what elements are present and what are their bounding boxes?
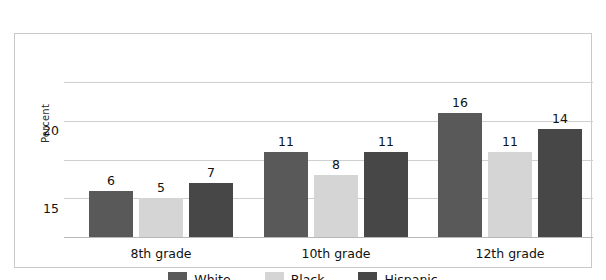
legend-swatch-white [168, 272, 187, 280]
legend-item-white: White [168, 272, 230, 280]
bar-value-label: 14 [552, 111, 568, 126]
plot-area: 051015206578th grade1181110th grade16111… [62, 34, 593, 269]
legend-item-hispanic: Hispanic [358, 272, 437, 280]
chart-legend: WhiteBlackHispanic [15, 272, 591, 280]
legend-swatch-hispanic [358, 272, 377, 280]
bar-value-label: 16 [452, 95, 468, 110]
bar-value-label: 7 [207, 165, 215, 180]
gridline-20: 20 [64, 82, 593, 83]
x-axis-group-label: 10th grade [301, 246, 370, 261]
bar-white-12th-grade: 16 [438, 113, 482, 237]
y-tick-label: 20 [43, 123, 59, 138]
legend-item-black: Black [265, 272, 325, 280]
bar-black-12th-grade: 11 [488, 152, 532, 237]
y-tick-label: 15 [43, 200, 59, 215]
chart-frame: Percent 051015206578th grade1181110th gr… [14, 33, 592, 268]
legend-label: White [194, 272, 230, 280]
gridline-15: 15 [64, 121, 593, 122]
bar-value-label: 6 [107, 173, 115, 188]
legend-label: Hispanic [384, 272, 437, 280]
bar-value-label: 11 [278, 134, 294, 149]
bar-black-8th-grade: 5 [139, 198, 183, 237]
bar-value-label: 8 [332, 157, 340, 172]
bar-chart: Percent 051015206578th grade1181110th gr… [0, 0, 606, 280]
bar-hispanic-12th-grade: 14 [538, 129, 582, 238]
legend-label: Black [291, 272, 325, 280]
bar-hispanic-8th-grade: 7 [189, 183, 233, 237]
bar-hispanic-10th-grade: 11 [364, 152, 408, 237]
legend-swatch-black [265, 272, 284, 280]
gridline-0: 0 [64, 237, 593, 238]
bar-value-label: 5 [157, 180, 165, 195]
x-axis-group-label: 12th grade [475, 246, 544, 261]
bar-value-label: 11 [378, 134, 394, 149]
bar-black-10th-grade: 8 [314, 175, 358, 237]
bar-white-10th-grade: 11 [264, 152, 308, 237]
bar-white-8th-grade: 6 [89, 191, 133, 238]
x-axis-group-label: 8th grade [130, 246, 191, 261]
bar-value-label: 11 [502, 134, 518, 149]
